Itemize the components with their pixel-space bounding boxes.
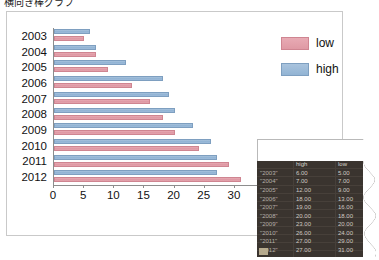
bar-group [54, 154, 253, 170]
y-axis-label: 2012 [21, 171, 47, 183]
bar-group [54, 28, 253, 44]
bar-group [54, 122, 253, 138]
table-row[interactable]: "2008"20.0018.00 [257, 211, 376, 220]
table-cell: 26.00 [293, 229, 335, 238]
x-axis-tick [143, 185, 144, 188]
bar-low[interactable] [54, 83, 132, 88]
bar-low[interactable] [54, 162, 229, 167]
table-cell: "2007" [257, 203, 293, 212]
table-row[interactable]: "2003"6.005.00 [257, 169, 376, 178]
x-axis-tick-label: 0 [50, 189, 56, 201]
table-row[interactable]: "2006"18.0013.00 [257, 194, 376, 203]
bar-high[interactable] [54, 45, 96, 50]
table-row[interactable]: "2010"26.0024.00 [257, 229, 376, 238]
table-cell: 23.00 [293, 220, 335, 229]
bar-high[interactable] [54, 139, 211, 144]
table-cell: "2003" [257, 169, 293, 178]
bar-group [54, 59, 253, 75]
y-axis-label: 2009 [21, 124, 47, 136]
x-axis-tick [113, 185, 114, 188]
bar-low[interactable] [54, 36, 84, 41]
x-axis-tick-label: 5 [80, 189, 86, 201]
torn-paper-top-edge [257, 139, 376, 161]
bar-high[interactable] [54, 108, 175, 113]
x-axis-tick-label: 25 [197, 189, 210, 201]
y-axis-label: 2007 [21, 93, 47, 105]
y-axis-label: 2004 [21, 46, 47, 58]
table-cell: "2008" [257, 211, 293, 220]
x-axis-tick-label: 10 [107, 189, 120, 201]
y-axis-label: 2003 [21, 30, 47, 42]
bar-high[interactable] [54, 29, 90, 34]
table-cell: 27.00 [293, 237, 335, 246]
table-cell: "2006" [257, 194, 293, 203]
x-axis-tick [83, 185, 84, 188]
table-cell: "2009" [257, 220, 293, 229]
y-axis-label: 2008 [21, 108, 47, 120]
table-row[interactable]: "2011"27.0029.00 [257, 237, 376, 246]
table-cell: "2005" [257, 186, 293, 195]
page-title: 横向き棒グラフ [4, 0, 74, 9]
table-cell: "2011" [257, 237, 293, 246]
data-table-body: highlow"2003"6.005.00"2004"7.007.00"2005… [257, 160, 376, 257]
y-axis-label: 2006 [21, 77, 47, 89]
table-cell: 12.00 [293, 186, 335, 195]
bar-low[interactable] [54, 99, 150, 104]
table-row[interactable]: "2004"7.007.00 [257, 177, 376, 186]
table-row[interactable]: "2012"27.0031.00 [257, 246, 376, 255]
x-axis-tick-label: 15 [137, 189, 150, 201]
bar-high[interactable] [54, 60, 126, 65]
table-cell: 20.00 [293, 211, 335, 220]
bar-high[interactable] [54, 170, 217, 175]
legend-item[interactable]: high [281, 62, 341, 76]
table-cell: 7.00 [293, 177, 335, 186]
legend-label: high [316, 62, 339, 76]
table-row[interactable]: "2009"23.0020.00 [257, 220, 376, 229]
y-axis-label: 2005 [21, 61, 47, 73]
bar-group [54, 91, 253, 107]
y-axis-label: 2010 [21, 140, 47, 152]
legend-swatch-high [281, 63, 309, 76]
bar-low[interactable] [54, 67, 108, 72]
table-header-cell [257, 160, 293, 169]
table-cell: "2010" [257, 229, 293, 238]
bar-high[interactable] [54, 123, 193, 128]
bar-low[interactable] [54, 130, 175, 135]
bar-high[interactable] [54, 155, 217, 160]
table-cell: 19.00 [293, 203, 335, 212]
legend-swatch-low [281, 37, 309, 50]
y-axis-labels: 2003200420052006200720082009201020112012 [7, 28, 51, 185]
legend-item[interactable]: low [281, 36, 341, 50]
table-row[interactable]: "2005"12.009.00 [257, 186, 376, 195]
x-axis-tick [174, 185, 175, 188]
x-axis-tick [204, 185, 205, 188]
bar-low[interactable] [54, 52, 96, 57]
table-cell: 6.00 [293, 169, 335, 178]
bar-low[interactable] [54, 177, 241, 182]
bar-low[interactable] [54, 146, 199, 151]
x-axis-tick-label: 20 [167, 189, 180, 201]
data-table-rows: highlow"2003"6.005.00"2004"7.007.00"2005… [257, 160, 376, 254]
bar-high[interactable] [54, 92, 169, 97]
torn-paper-right-edge [363, 139, 377, 257]
x-axis-line [53, 185, 263, 186]
bar-group [54, 138, 253, 154]
table-header-cell: high [293, 160, 335, 169]
legend-label: low [316, 36, 334, 50]
corner-chip-icon [259, 248, 268, 255]
chart-legend: lowhigh [281, 36, 341, 88]
x-axis-tick-label: 30 [228, 189, 241, 201]
x-axis-tick [234, 185, 235, 188]
y-axis-label: 2011 [22, 155, 47, 167]
table-cell: 18.00 [293, 194, 335, 203]
table-header-row: highlow [257, 160, 376, 169]
bar-high[interactable] [54, 76, 163, 81]
bar-group [54, 44, 253, 60]
bar-group [54, 75, 253, 91]
x-axis-tick [53, 185, 54, 188]
table-row[interactable]: "2007"19.0016.00 [257, 203, 376, 212]
data-table: highlow"2003"6.005.00"2004"7.007.00"2005… [257, 160, 376, 254]
bar-low[interactable] [54, 115, 163, 120]
table-cell: "2004" [257, 177, 293, 186]
screenshot-root: 横向き棒グラフ 20032004200520062007200820092010… [0, 0, 379, 260]
